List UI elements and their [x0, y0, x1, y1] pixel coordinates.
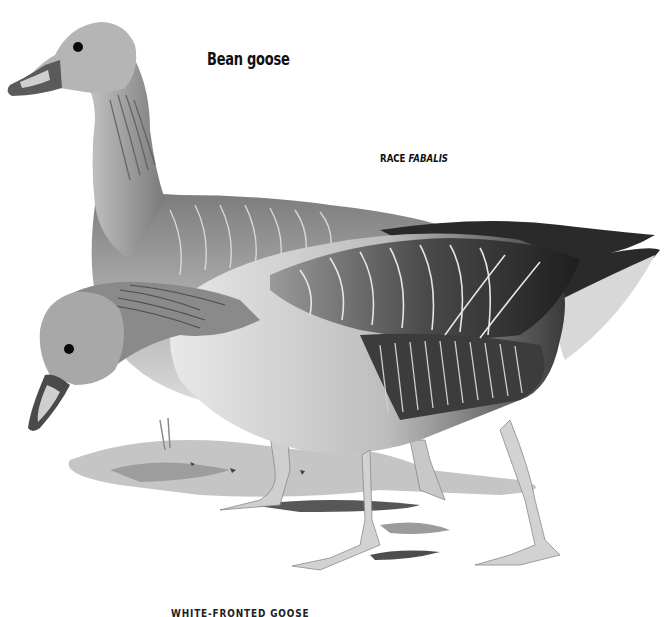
race-caption: RACE FABALIS: [380, 152, 448, 164]
race-name: FABALIS: [408, 152, 448, 164]
plate-title: Bean goose: [207, 49, 289, 69]
bottom-caption: WHITE-FRONTED GOOSE: [171, 607, 309, 617]
geese-illustration: [0, 0, 671, 617]
illustration-plate: Bean goose RACE FABALIS WHITE-FRONTED GO…: [0, 0, 671, 617]
race-label: RACE: [380, 152, 405, 164]
